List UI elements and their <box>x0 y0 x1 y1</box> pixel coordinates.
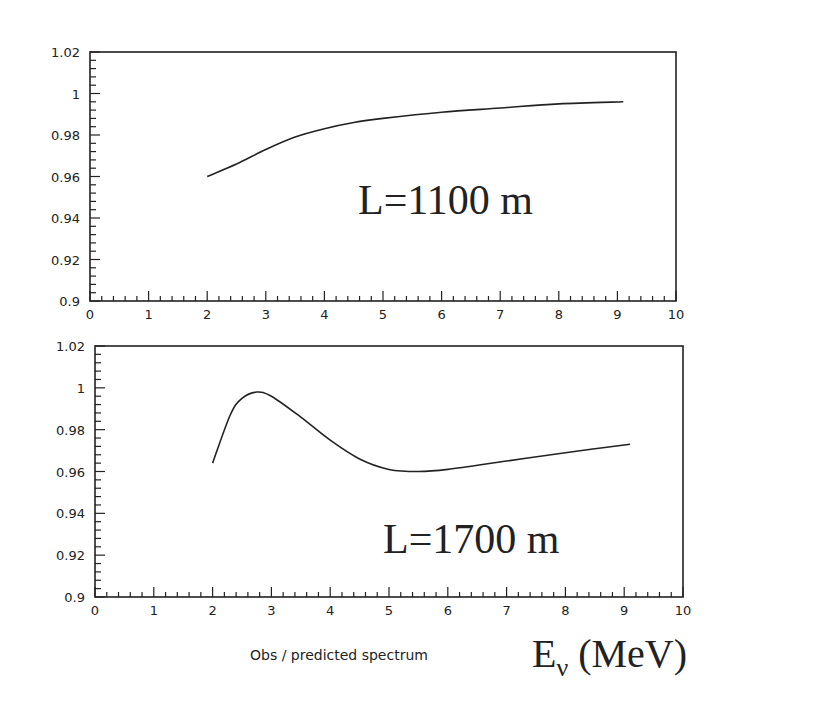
y-tick-label: 0.96 <box>56 465 85 480</box>
x-tick-label: 4 <box>320 307 328 322</box>
x-tick-label: 4 <box>326 603 334 618</box>
x-tick-label: 3 <box>262 307 270 322</box>
x-tick-label: 8 <box>561 603 569 618</box>
x-tick-label: 9 <box>620 603 628 618</box>
x-tick-label: 8 <box>555 307 563 322</box>
x-tick-label: 6 <box>437 307 445 322</box>
x-tick-label: 10 <box>668 307 685 322</box>
x-tick-label: 6 <box>444 603 452 618</box>
y-tick-label: 1.02 <box>51 45 80 60</box>
annotation-bottom: L=1700 m <box>383 516 560 562</box>
y-tick-label: 0.92 <box>56 548 85 563</box>
y-tick-label: 0.98 <box>56 423 85 438</box>
series-line <box>213 392 630 472</box>
x-tick-label: 3 <box>267 603 275 618</box>
x-tick-label: 1 <box>150 603 158 618</box>
y-tick-label: 0.9 <box>59 294 80 309</box>
annotation-top: L=1100 m <box>358 177 533 223</box>
y-tick-label: 1 <box>77 381 85 396</box>
x-tick-label: 1 <box>144 307 152 322</box>
x-axis-unit-label: Eν (MeV) <box>532 631 687 682</box>
x-tick-label: 5 <box>385 603 393 618</box>
plot-bottom: 0123456789100.90.920.940.960.9811.02 <box>56 339 691 618</box>
x-tick-label: 0 <box>86 307 94 322</box>
x-tick-label: 7 <box>496 307 504 322</box>
y-tick-label: 1.02 <box>56 339 85 354</box>
x-tick-label: 7 <box>502 603 510 618</box>
figure: 0123456789100.90.920.940.960.9811.02 012… <box>0 0 829 712</box>
x-tick-label: 2 <box>208 603 216 618</box>
x-tick-label: 9 <box>613 307 621 322</box>
y-tick-label: 0.92 <box>51 253 80 268</box>
y-tick-label: 0.94 <box>56 506 85 521</box>
x-tick-label: 2 <box>203 307 211 322</box>
x-tick-label: 0 <box>91 603 99 618</box>
series-line <box>207 102 623 177</box>
x-unit-rest: (MeV) <box>568 631 687 676</box>
y-tick-label: 0.9 <box>64 590 85 605</box>
x-unit-main: E <box>532 631 556 676</box>
y-tick-label: 1 <box>72 87 80 102</box>
x-tick-label: 5 <box>379 307 387 322</box>
y-tick-label: 0.96 <box>51 170 80 185</box>
caption: Obs / predicted spectrum <box>250 647 428 663</box>
x-tick-label: 10 <box>675 603 692 618</box>
x-unit-sub: ν <box>556 653 568 682</box>
y-tick-label: 0.94 <box>51 211 80 226</box>
y-tick-label: 0.98 <box>51 128 80 143</box>
